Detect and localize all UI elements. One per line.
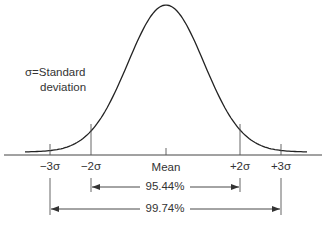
range-label-2sigma: 95.44% [142,181,187,193]
sigma-definition-line1: σ=Standard [25,67,86,79]
tick-plus-2sigma: +2σ [230,161,250,173]
diagram-graphics [0,0,325,228]
tick-mean: Mean [152,162,181,174]
tick-minus-3sigma: −3σ [40,161,60,173]
range-label-3sigma: 99.74% [142,203,187,215]
tick-plus-3sigma: +3σ [271,161,291,173]
normal-distribution-diagram: σ=Standard deviation −3σ −2σ Mean +2σ +3… [0,0,325,228]
sigma-definition-line2: deviation [40,82,86,94]
tick-minus-2sigma: −2σ [81,161,101,173]
